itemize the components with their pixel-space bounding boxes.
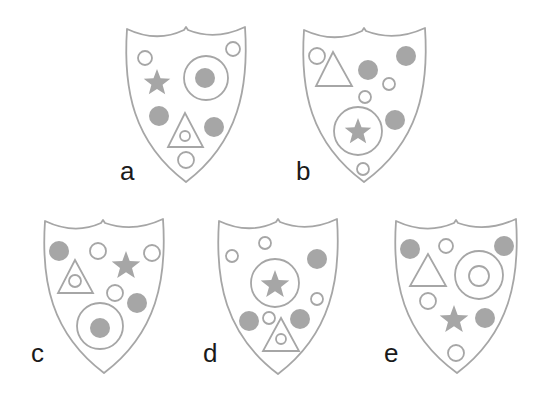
shield-label: d (203, 338, 217, 368)
triangle-icon (410, 254, 446, 286)
filled-circle-icon (127, 293, 147, 313)
open-circle-icon (439, 239, 453, 253)
filled-circle-icon (400, 239, 420, 259)
shield-label: c (31, 338, 44, 368)
filled-circle-icon (239, 311, 259, 331)
open-circle-icon (138, 51, 152, 65)
filled-circle-icon (385, 110, 405, 130)
shield-diagram: abcde (0, 0, 546, 393)
open-circle-icon (383, 78, 395, 90)
shield-e: e (384, 219, 517, 373)
large-ring-icon (455, 251, 503, 299)
open-circle-icon (311, 293, 323, 305)
star-icon (112, 251, 141, 278)
open-circle-icon (107, 285, 123, 301)
open-circle-icon (448, 345, 464, 361)
filled-circle-icon (396, 46, 416, 66)
open-circle-icon (178, 152, 194, 168)
filled-circle-icon (494, 236, 514, 256)
triangle-icon (58, 260, 93, 293)
filled-circle-icon (149, 106, 169, 126)
open-circle-icon (420, 293, 436, 309)
filled-circle-icon (204, 117, 224, 137)
shield-b: b (296, 28, 426, 186)
open-circle-icon (226, 42, 240, 56)
shield-label: a (120, 156, 135, 186)
star-icon (261, 270, 290, 297)
triangle-icon (168, 113, 203, 147)
star-icon (345, 118, 372, 143)
filled-circle-icon (195, 68, 215, 88)
shield-c: c (31, 219, 164, 373)
open-circle-icon (263, 312, 275, 324)
open-circle-icon (469, 266, 489, 286)
filled-circle-icon (49, 241, 69, 261)
open-circle-icon (276, 334, 286, 344)
filled-circle-icon (358, 60, 378, 80)
open-circle-icon (144, 245, 160, 261)
open-circle-icon (259, 237, 271, 249)
star-icon (144, 69, 171, 94)
shield-label: b (296, 156, 310, 186)
open-circle-icon (357, 163, 369, 175)
open-circle-icon (309, 48, 325, 64)
filled-circle-icon (307, 249, 327, 269)
open-circle-icon (180, 131, 190, 141)
filled-circle-icon (475, 308, 495, 328)
star-icon (440, 305, 469, 332)
open-circle-icon (226, 250, 238, 262)
shield-label: e (384, 338, 398, 368)
triangle-icon (316, 52, 352, 86)
shield-d: d (203, 219, 338, 374)
filled-circle-icon (290, 309, 310, 329)
open-circle-icon (359, 91, 371, 103)
open-circle-icon (69, 275, 81, 287)
open-circle-icon (90, 243, 106, 259)
filled-circle-icon (90, 318, 110, 338)
shield-a: a (120, 27, 246, 186)
